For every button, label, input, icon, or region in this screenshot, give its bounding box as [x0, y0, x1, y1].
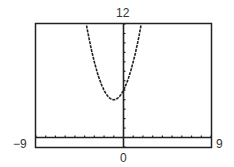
x-origin-label: 0 [120, 152, 127, 164]
axes [36, 24, 211, 147]
parabola-curve [87, 26, 141, 100]
graph-canvas [0, 0, 234, 167]
x-max-label: 9 [216, 138, 223, 150]
x-min-label: −9 [13, 138, 27, 150]
y-max-label: 12 [116, 7, 129, 19]
